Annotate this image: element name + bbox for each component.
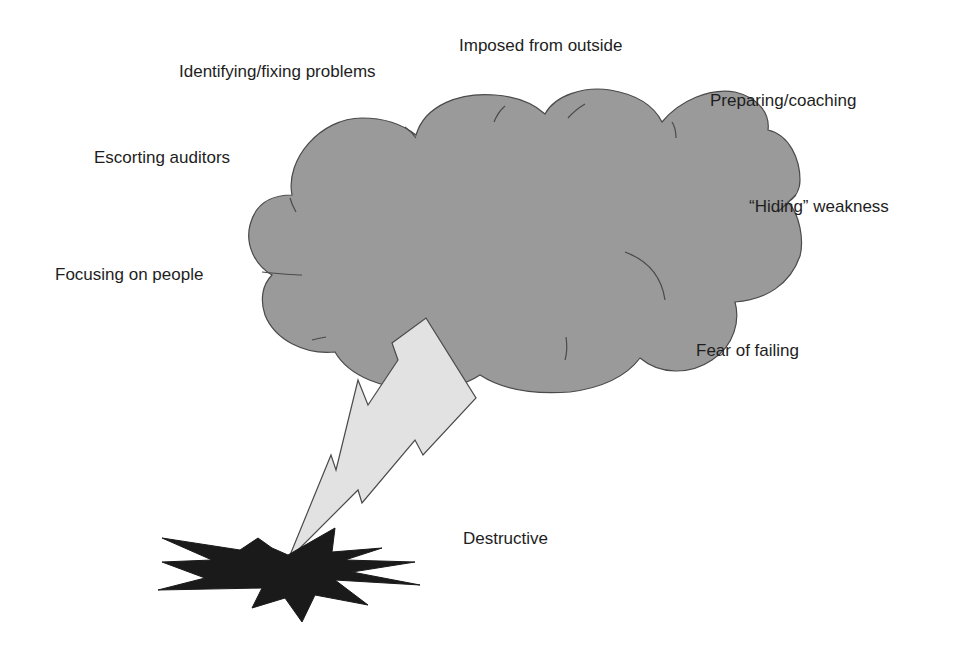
label-identifying-fixing-problems: Identifying/fixing problems xyxy=(179,63,376,80)
explosion-burst-icon xyxy=(158,528,420,622)
diagram-canvas: Imposed from outside Identifying/fixing … xyxy=(0,0,967,659)
label-imposed-from-outside: Imposed from outside xyxy=(459,37,622,54)
label-preparing-coaching: Preparing/coaching xyxy=(710,92,856,109)
label-hiding-weakness: “Hiding” weakness xyxy=(749,198,889,215)
label-destructive: Destructive xyxy=(463,530,548,547)
label-escorting-auditors: Escorting auditors xyxy=(94,149,230,166)
label-focusing-on-people: Focusing on people xyxy=(55,266,203,283)
label-fear-of-failing: Fear of failing xyxy=(696,342,799,359)
